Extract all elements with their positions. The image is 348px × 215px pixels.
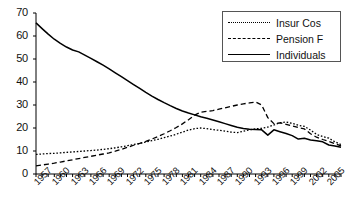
series-line-pension-f [36,102,341,166]
legend-label-insur-cos: Insur Cos [276,18,321,29]
legend-item-individuals: Individuals [228,47,326,63]
line-chart: 010203040506070 195719601963196619691972… [0,0,348,215]
legend-item-pension-f: Pension F [228,31,323,47]
y-axis-tick-label: 20 [2,122,28,133]
y-axis-tick-label: 50 [2,53,28,64]
y-axis-tick-label: 0 [2,168,28,179]
legend-swatch-dashed-icon [228,35,270,43]
y-axis-tick-label: 30 [2,99,28,110]
y-axis-tick-label: 40 [2,76,28,87]
y-axis-tick-label: 70 [2,7,28,18]
chart-legend: Insur Cos Pension F Individuals [222,11,341,62]
legend-label-individuals: Individuals [276,50,326,61]
legend-swatch-dotted-icon [228,19,270,27]
y-axis-tick-label: 10 [2,145,28,156]
y-axis-tick-label: 60 [2,30,28,41]
legend-item-insur-cos: Insur Cos [228,15,321,31]
legend-swatch-solid-icon [228,51,270,59]
legend-label-pension-f: Pension F [276,34,323,45]
